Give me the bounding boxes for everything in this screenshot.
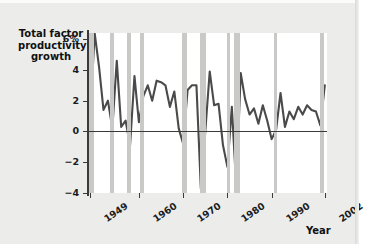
x-axis-tick-label: 1990 (283, 200, 311, 224)
y-axis-tick (83, 101, 89, 102)
x-axis-tick-label: 2002 (337, 200, 365, 224)
y-axis-tick-label: 0 (0, 125, 79, 136)
recession-band (200, 33, 206, 193)
x-axis-tick (90, 193, 91, 198)
recession-band (127, 33, 131, 193)
recession-band (110, 33, 114, 193)
recession-band (140, 33, 144, 193)
y-axis-tick-label: −2 (0, 156, 79, 167)
x-axis-tick (183, 193, 184, 198)
x-axis-tick-label: 1970 (195, 200, 223, 224)
x-axis-tick-label: 1980 (239, 200, 267, 224)
tfp-growth-line (88, 33, 327, 193)
x-axis-tick-label: 1960 (151, 200, 179, 224)
y-axis-tick-label: 2 (0, 95, 79, 106)
zero-baseline (88, 131, 327, 132)
recession-band (274, 33, 277, 193)
y-axis-title-line-3: growth (18, 51, 84, 63)
recession-band (182, 33, 186, 193)
x-axis-tick (325, 193, 326, 198)
y-axis-tick-label: 6% (0, 33, 79, 44)
recession-band (234, 33, 240, 193)
recession-band (227, 33, 230, 193)
y-axis-tick (83, 193, 89, 194)
x-axis-tick (139, 193, 140, 198)
y-axis-tick (83, 70, 89, 71)
recession-band (89, 33, 93, 193)
tfp-growth-polyline (90, 33, 325, 188)
x-axis-title: Year (306, 225, 331, 236)
x-axis-tick (272, 193, 273, 198)
y-axis-tick-label: 4 (0, 64, 79, 75)
x-axis-tick-label: 1949 (102, 200, 130, 224)
x-axis-tick (227, 193, 228, 198)
y-axis-tick (83, 162, 89, 163)
y-axis-tick (83, 39, 89, 40)
y-axis-tick (83, 131, 89, 132)
y-axis-tick-label: −4 (0, 187, 79, 198)
recession-band (320, 33, 324, 193)
y-axis-line (87, 30, 89, 196)
plot-area (88, 33, 327, 193)
